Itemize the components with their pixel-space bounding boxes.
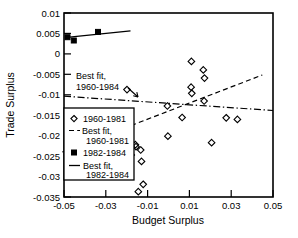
data-point [200,67,207,74]
x-tick-label: 0.05 [264,200,283,211]
y-axis-tick-labels: 0.01 0.005 0 -0.005 -0.01 -0.015 -0.02 -… [33,8,60,203]
legend-item-label: Best fit, [82,126,112,136]
chart-svg: 0.01 0.005 0 -0.005 -0.01 -0.015 -0.02 -… [0,0,298,238]
x-tick-label: -0.03 [95,200,117,211]
y-tick-label: 0.01 [42,8,61,19]
annotation-line-2: 1960-1984 [76,82,119,92]
data-point [96,29,101,34]
legend-item-label: 1982-1984 [83,148,126,158]
data-point [223,115,230,122]
y-tick-label: 0.005 [36,28,60,39]
y-tick-label: -0.02 [38,130,60,141]
series-1960-1981-points [120,58,241,195]
legend-item-label: Best fit, [83,161,113,171]
data-point [188,84,195,91]
data-point [138,158,145,165]
legend-filled-square-icon [72,150,77,155]
data-point [179,114,186,121]
best-fit-1960-1984-annotation: Best fit, 1960-1984 [76,71,138,97]
legend-item-label-line2: 1982-1984 [86,170,129,180]
data-point [234,116,241,123]
x-tick-label: 0.03 [222,200,241,211]
annotation-line-1: Best fit, [76,71,106,81]
y-tick-label: -0.03 [38,171,60,182]
data-point [140,181,147,188]
scatter-plot-figure: 0.01 0.005 0 -0.005 -0.01 -0.015 -0.02 -… [0,0,298,238]
x-tick-label: -0.05 [53,200,75,211]
y-tick-label: 0 [55,48,60,59]
y-tick-label: -0.01 [38,89,60,100]
data-point [188,58,195,65]
data-point [208,139,215,146]
data-point [201,75,208,82]
data-point [65,35,70,40]
y-tick-label: -0.015 [33,110,60,121]
data-point [165,133,172,140]
data-point [189,90,196,97]
x-axis-tick-labels: -0.05 -0.03 -0.01 0.01 0.03 0.05 [53,200,282,211]
data-point [135,188,142,195]
y-tick-label: -0.025 [33,151,60,162]
x-tick-label: -0.01 [137,200,159,211]
x-axis-title: Budget Surplus [132,214,204,226]
legend-item-label: 1960-1981 [83,114,126,124]
x-tick-label: 0.01 [180,200,199,211]
y-tick-label: -0.005 [33,69,60,80]
chart-legend[interactable]: 1960-1981 Best fit, 1960-1981 1982-1984 … [64,108,134,180]
data-point [71,38,76,43]
legend-item-label-line2: 1960-1981 [86,136,129,146]
y-axis-title: Trade Surplus [4,72,16,138]
x-axis-ticks [64,190,273,197]
